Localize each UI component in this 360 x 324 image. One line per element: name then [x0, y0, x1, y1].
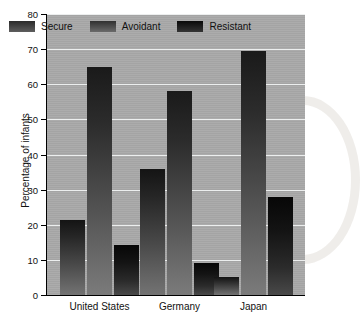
y-axis-line — [46, 14, 47, 296]
legend-item-secure: Secure — [9, 21, 73, 32]
y-tick-mark — [41, 119, 46, 120]
legend-label-resistant: Resistant — [209, 21, 251, 32]
y-tick-mark — [41, 225, 46, 226]
y-tick-mark — [41, 49, 46, 50]
y-tick-label: 10 — [27, 254, 38, 265]
y-tick-mark — [41, 260, 46, 261]
bar-united-states-resistant — [114, 245, 139, 295]
bar-japan-resistant — [268, 197, 293, 295]
bar-germany-avoidant — [167, 91, 192, 295]
y-axis-title: Percentage of infants — [20, 86, 31, 236]
gridline — [47, 84, 305, 85]
y-tick-mark — [41, 155, 46, 156]
y-tick-mark — [41, 295, 46, 296]
y-tick-mark — [41, 14, 46, 15]
y-tick-mark — [41, 190, 46, 191]
x-tick-label-japan: Japan — [240, 301, 267, 312]
x-axis-line — [46, 295, 305, 296]
legend: SecureAvoidantResistant — [9, 21, 251, 32]
y-tick-label: 80 — [27, 9, 38, 20]
legend-item-avoidant: Avoidant — [90, 21, 161, 32]
bar-united-states-secure — [60, 220, 85, 295]
bar-japan-secure — [214, 277, 239, 295]
y-tick-mark — [41, 84, 46, 85]
y-tick-label: 0 — [33, 290, 38, 301]
y-tick-label: 70 — [27, 44, 38, 55]
legend-swatch-avoidant — [90, 21, 116, 32]
bar-united-states-avoidant — [87, 67, 112, 295]
x-tick-label-united-states: United States — [69, 301, 129, 312]
legend-item-resistant: Resistant — [177, 21, 251, 32]
bar-japan-avoidant — [241, 51, 266, 295]
plot-area — [47, 14, 305, 295]
legend-label-secure: Secure — [41, 21, 73, 32]
gridline — [47, 14, 305, 15]
legend-swatch-resistant — [177, 21, 203, 32]
legend-swatch-secure — [9, 21, 35, 32]
bar-germany-secure — [140, 169, 165, 295]
legend-label-avoidant: Avoidant — [122, 21, 161, 32]
x-tick-label-germany: Germany — [159, 301, 200, 312]
gridline — [47, 49, 305, 50]
